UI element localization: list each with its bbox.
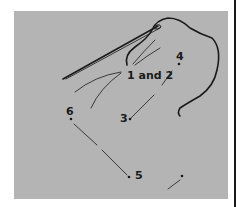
stitch-line-next <box>168 180 180 189</box>
label-point-3: 3 <box>120 113 128 124</box>
thread-strand <box>133 40 155 64</box>
stitch-diagram <box>0 0 237 207</box>
point-next-dot <box>181 175 184 178</box>
thread <box>126 18 218 116</box>
thread-strand <box>75 72 121 92</box>
point-5-dot <box>128 176 131 179</box>
label-points-1-and-2: 1 and 2 <box>127 70 173 81</box>
label-point-5: 5 <box>135 170 143 181</box>
point-4-dot <box>178 63 181 66</box>
point-3-dot <box>129 118 132 121</box>
point-6-dot <box>70 118 73 121</box>
label-point-6: 6 <box>66 106 74 117</box>
label-point-4: 4 <box>176 51 184 62</box>
thread-strand <box>91 73 121 108</box>
thread-strand <box>135 48 160 65</box>
stitch-line-6-5 <box>74 124 127 175</box>
